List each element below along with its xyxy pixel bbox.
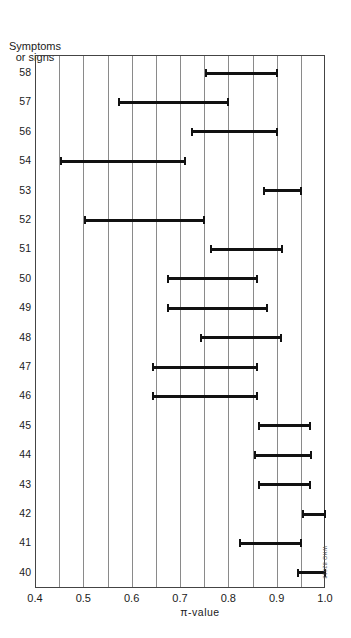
range-chart: Symptoms or signs 5857565453525150494847… bbox=[0, 0, 351, 638]
bar-end-cap bbox=[152, 363, 154, 371]
gridline bbox=[301, 56, 302, 587]
bar-end-cap bbox=[210, 245, 212, 253]
x-tick-label: 1.0 bbox=[310, 592, 340, 604]
x-axis-title: π-value bbox=[160, 606, 240, 618]
bar-end-cap bbox=[167, 275, 169, 283]
row-label: 40 bbox=[6, 566, 31, 578]
bar-end-cap bbox=[276, 128, 278, 136]
range-bar-46 bbox=[152, 395, 258, 398]
bar-end-cap bbox=[297, 569, 299, 577]
plot-area bbox=[35, 55, 325, 588]
row-label: 48 bbox=[6, 331, 31, 343]
bar-end-cap bbox=[309, 481, 311, 489]
row-label: 57 bbox=[6, 95, 31, 107]
bar-end-cap bbox=[254, 451, 256, 459]
row-label: 50 bbox=[6, 272, 31, 284]
row-label: 41 bbox=[6, 536, 31, 548]
row-label: 42 bbox=[6, 507, 31, 519]
gridline bbox=[156, 56, 157, 587]
bar-end-cap bbox=[239, 539, 241, 547]
x-tick-label: 0.9 bbox=[262, 592, 292, 604]
bar-end-cap bbox=[200, 334, 202, 342]
row-label: 52 bbox=[6, 213, 31, 225]
bar-end-cap bbox=[300, 539, 302, 547]
bar-end-cap bbox=[302, 510, 304, 518]
gridline bbox=[180, 56, 181, 587]
gridline bbox=[108, 56, 109, 587]
row-label: 51 bbox=[6, 242, 31, 254]
range-bar-43 bbox=[258, 483, 311, 486]
gridline bbox=[132, 56, 133, 587]
row-label: 43 bbox=[6, 478, 31, 490]
bar-end-cap bbox=[258, 422, 260, 430]
range-bar-51 bbox=[210, 248, 283, 251]
x-tick-label: 0.4 bbox=[20, 592, 50, 604]
bar-end-cap bbox=[152, 392, 154, 400]
range-bar-52 bbox=[84, 219, 205, 222]
bar-end-cap bbox=[256, 275, 258, 283]
range-bar-44 bbox=[254, 454, 312, 457]
figure-code-annotation: WHO 82618 bbox=[322, 546, 328, 579]
bar-end-cap bbox=[263, 187, 265, 195]
range-bar-57 bbox=[118, 101, 229, 104]
range-bar-48 bbox=[200, 336, 282, 339]
gridline bbox=[59, 56, 60, 587]
range-bar-58 bbox=[205, 72, 278, 75]
bar-end-cap bbox=[300, 187, 302, 195]
x-tick-label: 0.6 bbox=[117, 592, 147, 604]
gridline bbox=[83, 56, 84, 587]
bar-end-cap bbox=[84, 216, 86, 224]
row-label: 58 bbox=[6, 66, 31, 78]
bar-end-cap bbox=[258, 481, 260, 489]
bar-end-cap bbox=[60, 157, 62, 165]
range-bar-47 bbox=[152, 366, 258, 369]
row-label: 49 bbox=[6, 301, 31, 313]
bar-end-cap bbox=[203, 216, 205, 224]
range-bar-45 bbox=[258, 424, 311, 427]
range-bar-54 bbox=[60, 160, 186, 163]
bar-end-cap bbox=[266, 304, 268, 312]
bar-end-cap bbox=[205, 69, 207, 77]
bar-end-cap bbox=[184, 157, 186, 165]
bar-end-cap bbox=[280, 334, 282, 342]
range-bar-41 bbox=[239, 542, 302, 545]
row-label: 47 bbox=[6, 360, 31, 372]
bar-end-cap bbox=[191, 128, 193, 136]
bar-end-cap bbox=[167, 304, 169, 312]
range-bar-49 bbox=[167, 307, 269, 310]
bar-end-cap bbox=[227, 98, 229, 106]
range-bar-56 bbox=[191, 130, 278, 133]
gridline bbox=[228, 56, 229, 587]
bar-end-cap bbox=[256, 363, 258, 371]
bar-end-cap bbox=[118, 98, 120, 106]
bar-end-cap bbox=[309, 422, 311, 430]
x-tick-label: 0.5 bbox=[68, 592, 98, 604]
bar-end-cap bbox=[256, 392, 258, 400]
range-bar-42 bbox=[302, 513, 326, 516]
gridline bbox=[204, 56, 205, 587]
range-bar-53 bbox=[263, 189, 302, 192]
bar-end-cap bbox=[281, 245, 283, 253]
row-label: 53 bbox=[6, 184, 31, 196]
x-tick-label: 0.7 bbox=[165, 592, 195, 604]
bar-end-cap bbox=[276, 69, 278, 77]
row-label: 46 bbox=[6, 389, 31, 401]
row-label: 54 bbox=[6, 154, 31, 166]
gridline bbox=[253, 56, 254, 587]
bar-end-cap bbox=[324, 510, 326, 518]
bar-end-cap bbox=[310, 451, 312, 459]
x-tick-label: 0.8 bbox=[213, 592, 243, 604]
row-label: 44 bbox=[6, 448, 31, 460]
range-bar-50 bbox=[167, 277, 259, 280]
row-label: 56 bbox=[6, 125, 31, 137]
row-label: 45 bbox=[6, 419, 31, 431]
